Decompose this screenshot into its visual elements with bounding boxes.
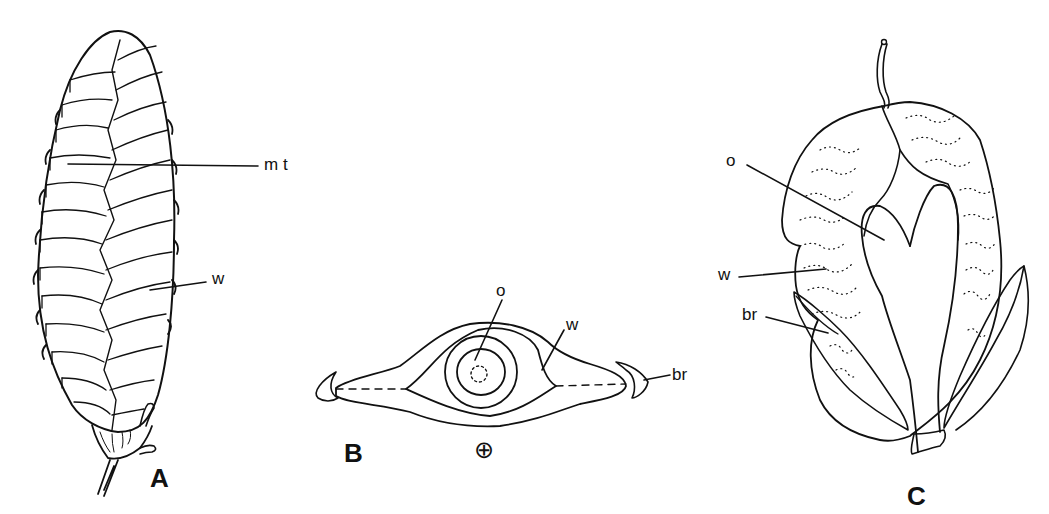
panel-b-cross-section-drawing bbox=[316, 300, 670, 426]
label-b-o: o bbox=[496, 282, 505, 299]
panel-c-winged-fruit-drawing bbox=[739, 40, 1028, 455]
label-b-w: w bbox=[566, 316, 578, 333]
panel-label-c: C bbox=[907, 483, 926, 509]
label-a-w: w bbox=[212, 270, 224, 287]
panel-a-cone-drawing bbox=[34, 31, 259, 496]
botanical-illustration bbox=[0, 0, 1049, 514]
floral-symbol-icon: ⊕ bbox=[474, 438, 494, 462]
label-a-mt: m t bbox=[264, 156, 288, 173]
panel-label-b: B bbox=[344, 440, 363, 466]
label-c-br: br bbox=[742, 306, 757, 323]
label-b-br: br bbox=[672, 366, 687, 383]
label-c-w: w bbox=[718, 266, 730, 283]
label-c-o: o bbox=[726, 152, 735, 169]
panel-label-a: A bbox=[150, 465, 169, 491]
